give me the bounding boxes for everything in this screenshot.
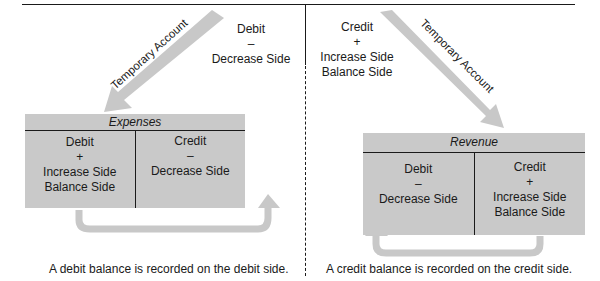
balance-label: Balance Side <box>475 205 586 220</box>
credit-label: Credit <box>475 160 586 175</box>
side-note-line: + <box>312 35 402 50</box>
debit-label: Debit <box>25 135 135 150</box>
right-side-note: Credit + Increase Side Balance Side <box>312 20 402 80</box>
revenue-debit-column: Debit – Decrease Side <box>363 153 474 235</box>
sign: + <box>475 175 586 190</box>
expenses-debit-column: Debit + Increase Side Balance Side <box>25 131 135 208</box>
revenue-title: Revenue <box>363 133 585 153</box>
right-caption: A credit balance is recorded on the cred… <box>326 262 572 276</box>
revenue-t-account: Revenue Debit – Decrease Side Credit + I… <box>363 133 585 235</box>
debit-label: Debit <box>363 162 474 177</box>
side-note-line: – <box>206 37 296 52</box>
expenses-title: Expenses <box>25 114 245 131</box>
effect-label: Decrease Side <box>363 192 474 207</box>
effect-label: Increase Side <box>25 165 135 180</box>
expenses-credit-column: Credit – Decrease Side <box>135 131 246 208</box>
side-note-line: Balance Side <box>312 65 402 80</box>
side-note-line: Debit <box>206 22 296 37</box>
side-note-line: Decrease Side <box>206 52 296 67</box>
credit-label: Credit <box>136 134 246 149</box>
side-note-line: Increase Side <box>312 50 402 65</box>
balance-label: Balance Side <box>25 180 135 195</box>
left-caption: A debit balance is recorded on the debit… <box>49 262 289 276</box>
sign: – <box>363 177 474 192</box>
effect-label: Increase Side <box>475 190 586 205</box>
revenue-credit-column: Credit + Increase Side Balance Side <box>474 153 586 235</box>
expenses-t-account: Expenses Debit + Increase Side Balance S… <box>25 114 245 208</box>
sign: + <box>25 150 135 165</box>
side-note-line: Credit <box>312 20 402 35</box>
left-side-note: Debit – Decrease Side <box>206 22 296 67</box>
effect-label: Decrease Side <box>136 164 246 179</box>
sign: – <box>136 149 246 164</box>
